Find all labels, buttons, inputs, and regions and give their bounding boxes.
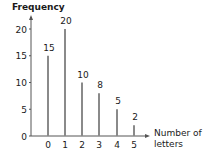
bar-chart: 05101520 012345 152010852 Frequency Numb…	[0, 0, 205, 158]
y-tick-label: 20	[16, 25, 28, 35]
bar-value-label: 5	[115, 96, 121, 106]
x-tick-label: 0	[45, 140, 51, 150]
x-axis-label-line1: Number of	[154, 128, 203, 138]
bar-value-label: 2	[132, 112, 138, 122]
y-axis-arrow-icon	[29, 15, 33, 20]
y-axis: 05101520	[16, 15, 33, 142]
y-tick-label: 5	[21, 105, 27, 115]
x-tick-label: 4	[114, 140, 120, 150]
y-tick-label: 15	[16, 51, 27, 61]
x-axis: 012345	[31, 134, 150, 150]
y-tick-label: 10	[16, 78, 28, 88]
bars: 152010852	[43, 16, 138, 136]
x-axis-arrow-icon	[145, 134, 150, 138]
x-tick-label: 5	[131, 140, 137, 150]
x-tick-label: 1	[62, 140, 68, 150]
x-tick-label: 2	[79, 140, 85, 150]
bar-value-label: 10	[77, 70, 89, 80]
bar-value-label: 15	[43, 43, 54, 53]
bar-value-label: 20	[60, 16, 72, 26]
y-tick-label: 0	[21, 132, 27, 142]
bar-value-label: 8	[97, 80, 103, 90]
x-tick-label: 3	[96, 140, 102, 150]
y-axis-label: Frequency	[12, 2, 65, 12]
x-axis-label-line2: letters	[154, 139, 183, 149]
